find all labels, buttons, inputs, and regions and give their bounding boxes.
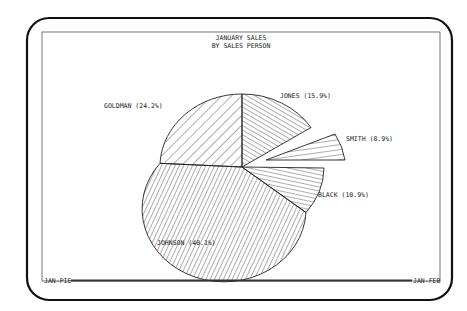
right-tag: JAN-FEB [413,277,440,285]
label-black: BLACK (10.9%) [318,191,369,199]
label-smith: SMITH (8.9%) [346,135,393,143]
left-tag: JAN-PIE [44,277,71,285]
chart-title: JANUARY SALES [216,34,267,42]
monitor-screen: JANUARY SALES BY SALES PERSON JONES (15.… [0,0,467,311]
label-johnson: JOHNSON (40.1%) [157,239,216,247]
label-goldman: GOLDMAN (24.2%) [104,102,163,110]
label-jones: JONES (15.9%) [280,92,331,100]
pie [142,94,345,282]
chart-subtitle: BY SALES PERSON [212,42,271,50]
slice-goldman [160,94,242,167]
